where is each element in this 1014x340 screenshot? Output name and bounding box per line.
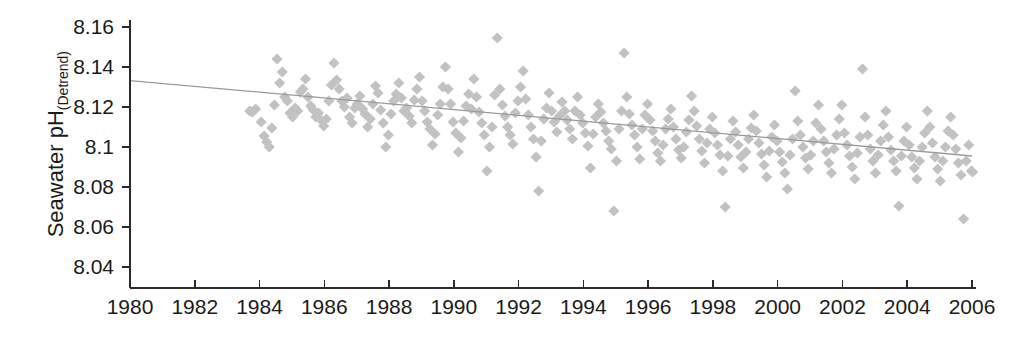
y-tick-label: 8.14 xyxy=(73,55,114,78)
x-tick-label: 1982 xyxy=(171,295,218,318)
data-point xyxy=(417,95,428,106)
data-point xyxy=(510,107,521,118)
data-point xyxy=(686,90,697,101)
data-point xyxy=(922,105,933,116)
x-tick-label: 1988 xyxy=(366,295,413,318)
y-tick-label: 8.12 xyxy=(73,95,114,118)
data-point xyxy=(950,143,961,154)
x-tick-label: 1986 xyxy=(301,295,348,318)
y-tick-label: 8.08 xyxy=(73,175,114,198)
data-point xyxy=(411,83,422,94)
data-point xyxy=(525,121,536,132)
data-point xyxy=(862,129,873,140)
data-point xyxy=(720,201,731,212)
data-point xyxy=(865,143,876,154)
x-tick-label: 1996 xyxy=(625,295,672,318)
data-point xyxy=(839,127,850,138)
data-point xyxy=(953,157,964,168)
data-point xyxy=(642,98,653,109)
data-point xyxy=(826,167,837,178)
data-point xyxy=(523,109,534,120)
data-point xyxy=(961,155,972,166)
data-point xyxy=(486,121,497,132)
data-markers xyxy=(244,32,978,224)
data-point xyxy=(440,61,451,72)
x-tick-label: 2006 xyxy=(949,295,996,318)
data-point xyxy=(689,105,700,116)
data-point xyxy=(880,105,891,116)
data-point xyxy=(414,71,425,82)
data-point xyxy=(911,173,922,184)
x-tick-label: 1980 xyxy=(107,295,154,318)
data-point xyxy=(777,156,788,167)
data-point xyxy=(385,108,396,119)
data-point xyxy=(274,77,285,88)
data-point xyxy=(860,111,871,122)
data-point xyxy=(634,153,645,164)
data-point xyxy=(458,115,469,126)
data-point xyxy=(533,185,544,196)
data-point xyxy=(585,162,596,173)
data-point xyxy=(797,141,808,152)
data-point xyxy=(748,109,759,120)
data-point xyxy=(497,99,508,110)
data-point xyxy=(963,139,974,150)
x-tick-label: 2000 xyxy=(754,295,801,318)
data-point xyxy=(955,169,966,180)
data-point xyxy=(831,129,842,140)
data-point xyxy=(271,53,282,64)
data-point xyxy=(803,163,814,174)
data-point xyxy=(445,98,456,109)
data-point xyxy=(847,161,858,172)
data-point xyxy=(432,109,443,120)
data-point xyxy=(269,99,280,110)
data-point xyxy=(769,119,780,130)
data-point xyxy=(528,133,539,144)
data-point xyxy=(468,73,479,84)
data-point xyxy=(901,121,912,132)
data-point xyxy=(727,115,738,126)
y-tick-label: 8.16 xyxy=(73,15,114,38)
data-point xyxy=(761,171,772,182)
x-tick-label: 1994 xyxy=(560,295,607,318)
data-point xyxy=(448,116,459,127)
data-point xyxy=(753,137,764,148)
data-point xyxy=(427,139,438,150)
data-point xyxy=(266,122,277,133)
data-point xyxy=(893,200,904,211)
data-point xyxy=(520,93,531,104)
data-point xyxy=(567,133,578,144)
data-point xyxy=(481,165,492,176)
data-point xyxy=(857,63,868,74)
data-point xyxy=(670,133,681,144)
data-point xyxy=(733,139,744,150)
data-point xyxy=(790,85,801,96)
x-tick-label: 1984 xyxy=(236,295,283,318)
data-point xyxy=(818,135,829,146)
data-point xyxy=(383,129,394,140)
data-point xyxy=(536,135,547,146)
data-point xyxy=(515,81,526,92)
data-point xyxy=(378,117,389,128)
data-point xyxy=(665,103,676,114)
data-point xyxy=(813,99,824,110)
data-point xyxy=(758,159,769,170)
data-point xyxy=(834,113,845,124)
data-point xyxy=(738,162,749,173)
data-point xyxy=(518,65,529,76)
data-point xyxy=(256,116,267,127)
y-axis-ticks: 8.048.068.088.18.128.148.16 xyxy=(73,15,130,278)
data-point xyxy=(717,165,728,176)
data-point xyxy=(958,213,969,224)
data-point xyxy=(367,98,378,109)
x-tick-label: 2002 xyxy=(819,295,866,318)
data-point xyxy=(476,117,487,128)
data-point xyxy=(512,95,523,106)
x-tick-label: 2004 xyxy=(884,295,931,318)
data-point xyxy=(774,146,785,157)
data-point xyxy=(891,165,902,176)
data-point xyxy=(619,47,630,58)
data-point xyxy=(484,141,495,152)
data-point xyxy=(507,138,518,149)
data-point xyxy=(323,95,334,106)
